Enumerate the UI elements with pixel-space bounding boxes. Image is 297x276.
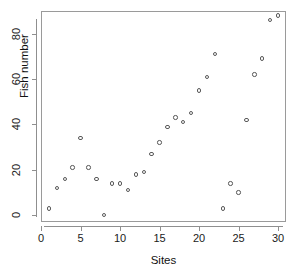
data-point: [149, 152, 153, 156]
data-point: [157, 140, 161, 144]
data-point: [47, 206, 51, 210]
y-tick: [32, 124, 37, 125]
data-point: [252, 72, 256, 76]
y-tick-label: 20: [10, 156, 22, 184]
y-tick-label-wrapper: 20: [2, 164, 30, 176]
y-tick: [32, 79, 37, 80]
data-point: [94, 177, 98, 181]
data-point: [276, 13, 280, 17]
data-point: [78, 136, 82, 140]
data-point: [221, 206, 225, 210]
data-point: [236, 190, 240, 194]
data-point: [228, 181, 232, 185]
data-point: [70, 165, 74, 169]
data-point: [110, 181, 114, 185]
x-tick: [160, 226, 161, 231]
x-tick-label: 0: [26, 232, 56, 244]
data-point: [118, 181, 122, 185]
plot-frame: [41, 11, 286, 222]
y-tick: [32, 34, 37, 35]
x-tick: [41, 226, 42, 231]
y-tick: [32, 170, 37, 171]
x-tick: [120, 226, 121, 231]
scatter-plot-figure: 051015202530 020406080 Sites Fish number: [0, 0, 297, 276]
y-tick: [32, 215, 37, 216]
data-point: [134, 172, 138, 176]
x-tick: [239, 226, 240, 231]
clipped-title: [120, 0, 240, 6]
data-point: [197, 88, 201, 92]
y-tick-label: 0: [10, 201, 22, 229]
data-point: [165, 125, 169, 129]
x-axis-label: Sites: [41, 254, 286, 266]
x-tick-label: 25: [224, 232, 254, 244]
y-axis-label-wrapper: Fish number: [0, 58, 84, 74]
x-tick-label: 5: [66, 232, 96, 244]
x-tick: [199, 226, 200, 231]
y-axis-label: Fish number: [16, 6, 32, 126]
data-point: [244, 118, 248, 122]
data-point: [86, 165, 90, 169]
x-tick-label: 30: [263, 232, 293, 244]
x-tick: [81, 226, 82, 231]
x-tick: [278, 226, 279, 231]
data-point: [173, 115, 177, 119]
x-tick-label: 20: [184, 232, 214, 244]
x-tick-label: 15: [145, 232, 175, 244]
data-point: [63, 177, 67, 181]
y-axis-line: [36, 19, 37, 217]
y-tick-label-wrapper: 0: [2, 209, 30, 221]
x-tick-label: 10: [105, 232, 135, 244]
